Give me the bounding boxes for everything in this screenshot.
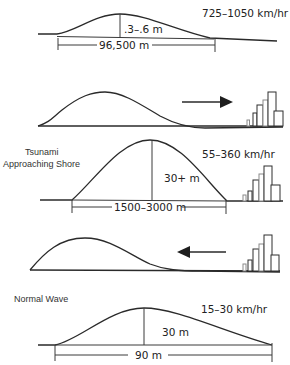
building: [263, 100, 268, 126]
building: [257, 105, 263, 126]
arrow-right-icon: [220, 96, 233, 108]
wave-height-label: 30 m: [162, 326, 189, 338]
wavelength-label: 96,500 m: [99, 39, 149, 51]
panel-approaching-shore: Tsunami Approaching Shore 1500–3000 m 30…: [3, 140, 283, 214]
building: [248, 191, 252, 201]
wave-speed-label: 55–360 km/hr: [202, 148, 275, 160]
wave-height-label: 30+ m: [164, 172, 200, 184]
tsunami-diagram: 96,500 m .3–.6 m 725–1050 km/hr Tsunami …: [0, 0, 290, 365]
wavelength-label: 90 m: [135, 349, 162, 361]
building: [253, 249, 259, 271]
building: [271, 255, 279, 271]
wave-speed-label: 15–30 km/hr: [201, 303, 268, 315]
wave-height-label: .3–.6 m: [124, 23, 163, 35]
building: [248, 260, 252, 271]
building: [274, 111, 283, 126]
building: [247, 120, 250, 126]
panel-normal-wave: Normal Wave 90 m 30 m 15–30 km/hr: [14, 294, 272, 362]
building: [243, 195, 246, 201]
shoreline-buildings: [243, 235, 279, 271]
building: [253, 180, 259, 201]
panel-title-line2: Approaching Shore: [3, 159, 80, 169]
wave-profile: [38, 92, 283, 128]
wave-speed-label: 725–1050 km/hr: [202, 7, 289, 19]
wavelength-label: 1500–3000 m: [114, 201, 186, 213]
panel-approaching: [38, 92, 283, 128]
panel-title: Normal Wave: [14, 294, 68, 304]
panel-title-line1: Tsunami: [25, 147, 59, 157]
building: [243, 264, 246, 271]
building: [259, 244, 264, 271]
shoreline-buildings: [247, 92, 283, 126]
building: [259, 174, 264, 201]
building: [271, 185, 280, 201]
building: [253, 113, 257, 126]
shoreline-buildings: [243, 166, 280, 201]
panel-drawback: [30, 235, 280, 272]
arrow-left-icon: [177, 246, 190, 258]
panel-deep-ocean: 96,500 m .3–.6 m 725–1050 km/hr: [38, 7, 289, 52]
